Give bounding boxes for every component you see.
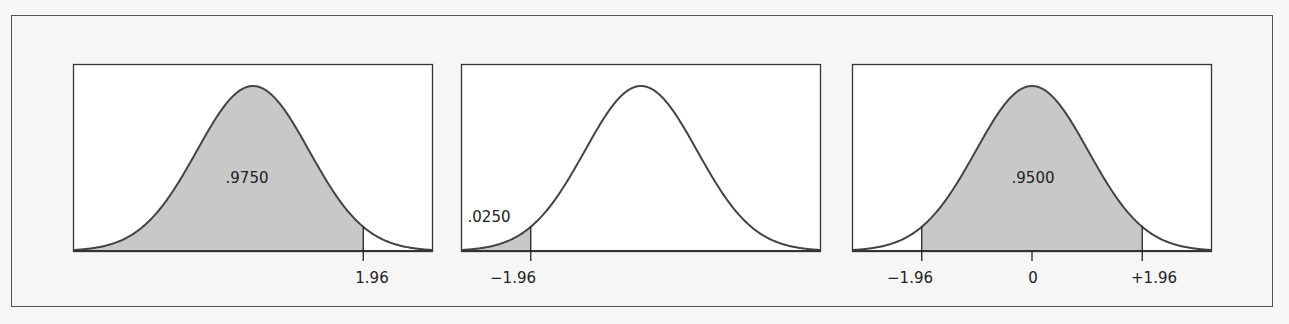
normal-curve-plot	[73, 64, 433, 262]
area-label: .9750	[226, 169, 269, 187]
tick-label-neg-1.96: −1.96	[490, 269, 536, 287]
normal-curve-plot	[461, 64, 821, 262]
panel-left-tail-9750: .9750 1.96	[73, 64, 433, 252]
panel-lower-tail-0250: .0250 −1.96	[461, 64, 821, 252]
panel-central-9500: .9500 −1.96 0 +1.96	[852, 64, 1212, 252]
area-label: .0250	[468, 208, 511, 226]
tick-label-neg-1.96: −1.96	[887, 269, 933, 287]
tick-label-zero: 0	[1028, 269, 1038, 287]
tick-label-1.96: 1.96	[355, 269, 388, 287]
area-label: .9500	[1012, 169, 1055, 187]
normal-curve-plot	[852, 64, 1212, 262]
tick-label-pos-1.96: +1.96	[1131, 269, 1177, 287]
figure-frame: .9750 1.96 .0250 −1.96 .9500 −1.96 0 +1.…	[11, 15, 1273, 307]
